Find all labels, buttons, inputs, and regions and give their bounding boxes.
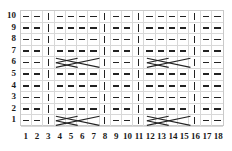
- purl-stitch-cell: [21, 34, 32, 46]
- purl-stitch-cell: [178, 81, 189, 93]
- knit-stitch-cell: [100, 11, 111, 23]
- column-label: 11: [133, 129, 144, 143]
- column-label: 4: [54, 129, 65, 143]
- purl-stitch-cell: [144, 81, 155, 93]
- purl-stitch-cell: [32, 81, 43, 93]
- knit-stitch-cell: [133, 104, 144, 116]
- knit-stitch-cell: [189, 11, 200, 23]
- knit-stitch-cell: [100, 92, 111, 104]
- purl-stitch-cell: [111, 104, 122, 116]
- purl-stitch-cell: [55, 92, 66, 104]
- purl-stitch-cell: [178, 11, 189, 23]
- purl-stitch-cell: [122, 34, 133, 46]
- purl-stitch-cell: [201, 11, 212, 23]
- knit-stitch-cell: [189, 92, 200, 104]
- knit-stitch-cell: [133, 11, 144, 23]
- purl-stitch-cell: [144, 69, 155, 81]
- purl-stitch-cell: [21, 46, 32, 58]
- cable-stitch-cell: [66, 115, 77, 127]
- purl-stitch-cell: [156, 11, 167, 23]
- purl-stitch-cell: [88, 23, 99, 35]
- purl-stitch-cell: [55, 11, 66, 23]
- purl-stitch-cell: [144, 11, 155, 23]
- purl-stitch-cell: [21, 11, 32, 23]
- knit-stitch-cell: [189, 23, 200, 35]
- purl-stitch-cell: [88, 104, 99, 116]
- cable-stitch-cell: [178, 115, 189, 127]
- column-label: 17: [201, 129, 212, 143]
- purl-stitch-cell: [144, 46, 155, 58]
- purl-stitch-cell: [66, 23, 77, 35]
- cable-stitch-cell: [77, 115, 88, 127]
- knit-stitch-cell: [133, 46, 144, 58]
- purl-stitch-cell: [212, 46, 223, 58]
- knit-stitch-cell: [100, 69, 111, 81]
- column-label: 10: [122, 129, 133, 143]
- knit-stitch-cell: [43, 46, 54, 58]
- cable-stitch-cell: [178, 57, 189, 69]
- purl-stitch-cell: [32, 104, 43, 116]
- knit-stitch-cell: [133, 34, 144, 46]
- row-label: 10: [0, 10, 19, 22]
- knit-stitch-cell: [189, 81, 200, 93]
- column-number-axis: 123456789101112131415161718: [20, 129, 224, 143]
- knitting-chart: 10987654321 123456789101112131415161718: [0, 0, 232, 151]
- purl-stitch-cell: [21, 104, 32, 116]
- purl-stitch-cell: [21, 69, 32, 81]
- purl-stitch-cell: [156, 23, 167, 35]
- purl-stitch-cell: [21, 115, 32, 127]
- chart-row: [21, 34, 223, 46]
- purl-stitch-cell: [122, 11, 133, 23]
- row-label: 9: [0, 22, 19, 34]
- column-label: 8: [99, 129, 110, 143]
- purl-stitch-cell: [32, 115, 43, 127]
- stitch-grid: [20, 10, 224, 126]
- purl-stitch-cell: [32, 11, 43, 23]
- purl-stitch-cell: [77, 104, 88, 116]
- purl-stitch-cell: [88, 11, 99, 23]
- purl-stitch-cell: [122, 69, 133, 81]
- purl-stitch-cell: [122, 57, 133, 69]
- purl-stitch-cell: [201, 81, 212, 93]
- purl-stitch-cell: [201, 23, 212, 35]
- chart-row: [21, 46, 223, 58]
- purl-stitch-cell: [178, 92, 189, 104]
- purl-stitch-cell: [111, 92, 122, 104]
- purl-stitch-cell: [122, 115, 133, 127]
- purl-stitch-cell: [32, 69, 43, 81]
- column-label: 1: [20, 129, 31, 143]
- cable-stitch-cell: [167, 115, 178, 127]
- purl-stitch-cell: [122, 23, 133, 35]
- purl-stitch-cell: [66, 81, 77, 93]
- purl-stitch-cell: [122, 104, 133, 116]
- purl-stitch-cell: [212, 11, 223, 23]
- row-label: 5: [0, 68, 19, 80]
- knit-stitch-cell: [189, 34, 200, 46]
- purl-stitch-cell: [66, 11, 77, 23]
- purl-stitch-cell: [32, 46, 43, 58]
- purl-stitch-cell: [77, 69, 88, 81]
- purl-stitch-cell: [32, 57, 43, 69]
- column-label: 14: [167, 129, 178, 143]
- purl-stitch-cell: [55, 69, 66, 81]
- purl-stitch-cell: [156, 34, 167, 46]
- knit-stitch-cell: [100, 115, 111, 127]
- knit-stitch-cell: [100, 104, 111, 116]
- row-label: 3: [0, 91, 19, 103]
- column-label: 7: [88, 129, 99, 143]
- purl-stitch-cell: [201, 92, 212, 104]
- purl-stitch-cell: [167, 69, 178, 81]
- knit-stitch-cell: [189, 69, 200, 81]
- purl-stitch-cell: [32, 34, 43, 46]
- purl-stitch-cell: [144, 92, 155, 104]
- purl-stitch-cell: [167, 11, 178, 23]
- column-label: 18: [213, 129, 224, 143]
- chart-row: [21, 69, 223, 81]
- knit-stitch-cell: [43, 34, 54, 46]
- purl-stitch-cell: [111, 34, 122, 46]
- purl-stitch-cell: [111, 23, 122, 35]
- cable-stitch-cell: [77, 57, 88, 69]
- cable-stitch-cell: [167, 57, 178, 69]
- purl-stitch-cell: [32, 23, 43, 35]
- purl-stitch-cell: [88, 81, 99, 93]
